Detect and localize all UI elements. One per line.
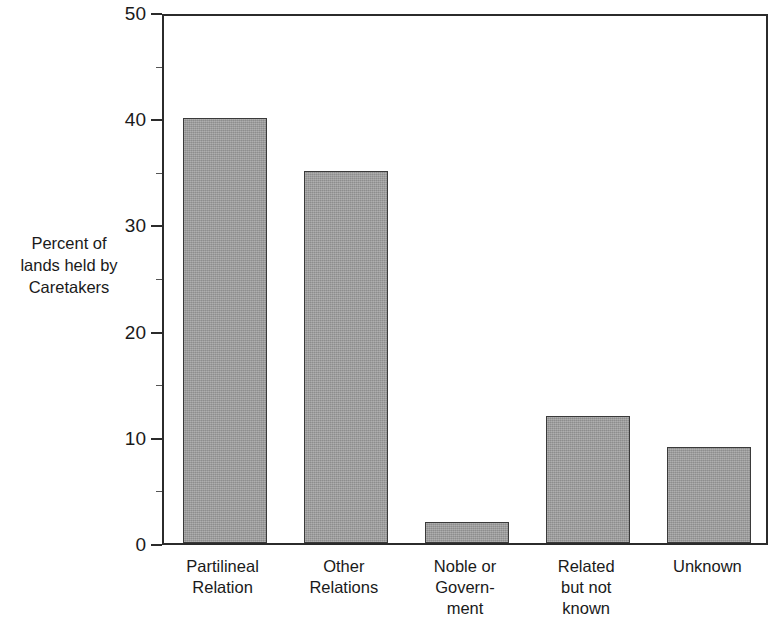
plot-area <box>162 14 768 545</box>
y-axis-tick <box>151 438 162 440</box>
x-axis-tick-label: Unknown <box>647 556 768 577</box>
y-axis-tick <box>151 544 162 546</box>
y-axis-title: Percent of lands held by Caretakers <box>4 232 134 298</box>
y-axis-tick-label: 20 <box>86 323 146 342</box>
y-axis-tick <box>151 225 162 227</box>
x-axis-tick-label: Other Relations <box>283 556 404 598</box>
bar <box>667 447 751 543</box>
y-axis-tick-label: 50 <box>86 4 146 23</box>
y-axis-tick-label: 10 <box>86 429 146 448</box>
bars-layer <box>164 16 766 543</box>
bar <box>183 118 267 543</box>
x-axis-tick-label: Related but not known <box>526 556 647 619</box>
y-axis-tick-label: 0 <box>86 535 146 554</box>
bar <box>425 522 509 543</box>
bar <box>304 171 388 543</box>
y-axis-tick <box>151 13 162 15</box>
y-axis-tick-label: 30 <box>86 216 146 235</box>
x-axis-tick-label: Partilineal Relation <box>162 556 283 598</box>
bar <box>546 416 630 543</box>
y-axis-tick <box>151 332 162 334</box>
x-axis-tick-label: Noble or Govern- ment <box>404 556 525 619</box>
y-axis-tick-label: 40 <box>86 110 146 129</box>
bar-chart-figure: Percent of lands held by Caretakers 5040… <box>0 0 779 622</box>
y-axis-tick <box>151 119 162 121</box>
